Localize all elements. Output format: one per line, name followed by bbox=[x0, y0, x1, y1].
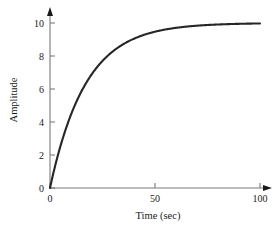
x-tick-label: 100 bbox=[253, 193, 268, 204]
x-axis-ticks bbox=[50, 183, 260, 188]
y-tick-label: 2 bbox=[39, 150, 44, 161]
y-tick-label: 4 bbox=[39, 117, 44, 128]
chart-plot: 0246810 050100 Time (sec) Amplitude bbox=[0, 0, 279, 230]
y-tick-label: 0 bbox=[39, 183, 44, 194]
x-tick-label: 50 bbox=[150, 193, 160, 204]
x-tick-label: 0 bbox=[48, 193, 53, 204]
y-axis-ticks bbox=[50, 23, 55, 188]
chart-container: 0246810 050100 Time (sec) Amplitude bbox=[0, 0, 279, 230]
data-curve bbox=[50, 23, 260, 188]
y-axis-tick-labels: 0246810 bbox=[34, 18, 44, 194]
y-tick-label: 6 bbox=[39, 84, 44, 95]
x-axis-arrowhead bbox=[263, 185, 272, 191]
y-axis-title: Amplitude bbox=[8, 77, 19, 122]
x-axis-tick-labels: 050100 bbox=[48, 193, 268, 204]
y-axis-arrowhead bbox=[47, 7, 53, 16]
x-axis-title: Time (sec) bbox=[136, 210, 181, 222]
y-tick-label: 10 bbox=[34, 18, 44, 29]
y-tick-label: 8 bbox=[39, 51, 44, 62]
